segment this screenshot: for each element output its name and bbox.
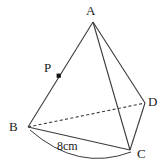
dimension-label-bc: 8cm <box>57 140 78 152</box>
vertex-label-b: B <box>9 120 18 133</box>
tetrahedron-diagram <box>0 0 165 167</box>
vertex-label-a: A <box>86 4 95 17</box>
vertex-label-d: D <box>148 95 157 108</box>
point-label-p: P <box>44 61 51 74</box>
vertex-label-c: C <box>137 147 146 160</box>
measurement-arc-bc <box>30 130 131 158</box>
edge-dc <box>130 103 145 150</box>
edge-bc <box>28 127 130 150</box>
edge-ac <box>93 22 130 150</box>
point-p-marker <box>57 74 61 78</box>
edge-ad <box>93 22 145 103</box>
edge-bd-hidden <box>28 103 145 127</box>
geometry-figure: A B C D P 8cm <box>0 0 165 167</box>
